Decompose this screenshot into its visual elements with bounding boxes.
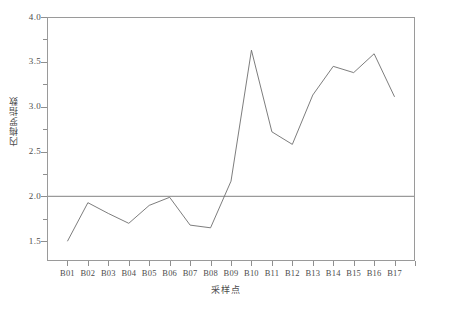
x-axis-tick (292, 261, 293, 266)
x-axis-tick-label: B09 (224, 268, 239, 278)
x-axis-tick (415, 261, 416, 266)
y-axis-tick-label: 2.0 (29, 192, 41, 201)
y-axis-tick-label: 2.5 (29, 147, 41, 156)
x-axis-tick (354, 261, 355, 266)
x-axis-tick-label: B07 (183, 268, 198, 278)
data-series-line (67, 50, 394, 241)
plot-svg (47, 17, 415, 261)
x-axis-tick-label: B06 (162, 268, 177, 278)
x-axis-tick (272, 261, 273, 266)
x-axis-tick (231, 261, 232, 266)
x-axis-tick (374, 261, 375, 266)
x-axis-tick (251, 261, 252, 266)
x-axis-tick-label: B02 (80, 268, 95, 278)
x-axis-title: 采样点 (0, 285, 452, 296)
y-axis-title: 内梅罗指数 (8, 96, 24, 146)
x-axis-tick (129, 261, 130, 266)
y-axis-tick-labels: 1.52.02.53.03.54.0 (6, 0, 41, 312)
chart-figure: 1.52.02.53.03.54.0 内梅罗指数 B01B02B03B04B05… (0, 0, 452, 312)
x-axis-tick-label: B10 (244, 268, 259, 278)
x-axis-tick-label: B17 (387, 268, 402, 278)
x-axis-tick (88, 261, 89, 266)
x-axis-tick-label: B14 (326, 268, 341, 278)
x-axis-tick (395, 261, 396, 266)
x-axis-tick-label: B11 (265, 268, 279, 278)
x-axis-tick (333, 261, 334, 266)
x-axis-tick-label: B05 (142, 268, 157, 278)
y-axis-tick-label: 3.0 (29, 102, 41, 111)
x-axis-tick (149, 261, 150, 266)
x-axis-tick-label: B12 (285, 268, 300, 278)
x-axis-tick-label: B16 (367, 268, 382, 278)
y-axis-tick-label: 1.5 (29, 237, 41, 246)
x-axis-tick (108, 261, 109, 266)
x-axis-tick (67, 261, 68, 266)
x-axis-tick-label: B13 (305, 268, 320, 278)
x-axis-tick-label: B04 (121, 268, 136, 278)
x-axis-tick (211, 261, 212, 266)
y-axis-tick-label: 3.5 (29, 57, 41, 66)
x-axis-tick-label: B08 (203, 268, 218, 278)
plot-area (47, 17, 415, 261)
x-axis-tick (313, 261, 314, 266)
x-axis-tick (190, 261, 191, 266)
x-axis-tick-label: B01 (60, 268, 75, 278)
y-axis-tick-label: 4.0 (29, 13, 41, 22)
x-axis-tick (170, 261, 171, 266)
x-axis-tick-label: B03 (101, 268, 116, 278)
x-axis-tick-label: B15 (346, 268, 361, 278)
